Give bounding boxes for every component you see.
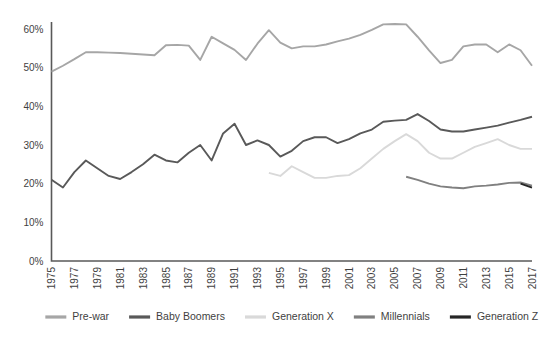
x-axis-tick-label: 1977 — [69, 267, 80, 290]
x-axis-tick-label: 1979 — [92, 267, 103, 290]
x-axis-tick-label: 2017 — [527, 267, 538, 290]
x-axis-tick-label: 2011 — [458, 267, 469, 289]
legend-label-pre-war: Pre-war — [72, 310, 109, 322]
y-axis-tick-labels: 0%10%20%30%40%50%60% — [23, 24, 43, 267]
x-axis-tick-label: 1995 — [275, 267, 286, 290]
series-line-baby-boomers — [52, 114, 533, 187]
y-axis-tick-label: 10% — [23, 217, 43, 228]
y-axis-tick-label: 60% — [23, 24, 43, 35]
chart-container: 0%10%20%30%40%50%60% 1975197719791981198… — [0, 0, 551, 340]
x-axis-tick-label: 1975 — [46, 267, 57, 290]
x-axis-tick-label: 1983 — [138, 267, 149, 290]
x-axis-tick-label: 1985 — [161, 267, 172, 290]
x-axis-tick-labels: 1975197719791981198319851987198919911993… — [46, 267, 537, 290]
legend-label-generation-x: Generation X — [272, 310, 334, 322]
line-chart: 0%10%20%30%40%50%60% 1975197719791981198… — [0, 0, 551, 340]
y-axis-tick-label: 50% — [23, 62, 43, 73]
x-axis-tick-label: 2009 — [435, 267, 446, 290]
x-axis-tick-label: 1987 — [183, 267, 194, 290]
x-axis-tick-label: 1991 — [229, 267, 240, 290]
legend-label-millennials: Millennials — [381, 310, 430, 322]
y-axis-tick-label: 40% — [23, 101, 43, 112]
series-lines — [52, 24, 533, 188]
x-axis-tick-label: 1997 — [298, 267, 309, 290]
series-line-generation-x — [269, 134, 532, 178]
y-axis-tick-label: 30% — [23, 140, 43, 151]
x-axis-tick-label: 2007 — [412, 267, 423, 290]
x-axis-tick-label: 2001 — [344, 267, 355, 290]
x-axis-tick-label: 2005 — [389, 267, 400, 290]
x-axis-tick-label: 1989 — [206, 267, 217, 290]
legend-label-baby-boomers: Baby Boomers — [156, 310, 225, 322]
legend-label-generation-z: Generation Z — [477, 310, 539, 322]
x-axis-tick-label: 1981 — [115, 267, 126, 290]
x-axis-tick-label: 2003 — [366, 267, 377, 290]
chart-axes — [52, 22, 533, 261]
x-axis-tick-label: 1999 — [321, 267, 332, 290]
y-axis-tick-label: 0% — [29, 256, 44, 267]
series-line-pre-war — [52, 24, 533, 72]
x-axis-tick-label: 2015 — [504, 267, 515, 290]
x-axis-tick-label: 1993 — [252, 267, 263, 290]
x-axis-tick-label: 2013 — [481, 267, 492, 290]
y-axis-tick-label: 20% — [23, 178, 43, 189]
series-line-millennials — [406, 177, 532, 189]
chart-legend: Pre-warBaby BoomersGeneration XMillennia… — [45, 310, 538, 322]
